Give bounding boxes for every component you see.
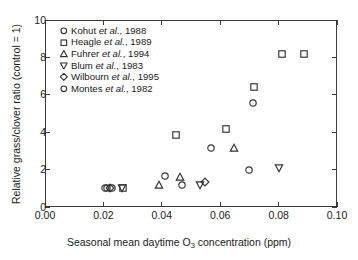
x-tick (220, 20, 221, 25)
circle-icon (57, 85, 71, 93)
x-tick-label: 0.08 (268, 210, 288, 221)
legend-label: Montes et al., 1982 (71, 84, 153, 94)
ozone-subscript: 3 (191, 241, 195, 250)
triangle-up-icon (57, 50, 71, 58)
legend-label: Heagle et al., 1989 (71, 37, 152, 47)
y-tick (332, 132, 337, 133)
x-tick-label: 0.00 (35, 210, 55, 221)
legend-item: Montes et al., 1982 (57, 83, 207, 95)
chart-legend: Kohut et al., 1988Heagle et al., 1989Fuh… (57, 25, 207, 95)
legend-item: Heagle et al., 1989 (57, 37, 207, 49)
legend-item: Blum et al., 1983 (57, 60, 207, 72)
x-tick (161, 202, 162, 207)
legend-label: Blum et al., 1983 (71, 61, 143, 71)
diamond-icon (57, 73, 71, 81)
x-tick-label: 0.10 (327, 210, 347, 221)
chart-figure: 0246810 0.000.020.040.060.080.10 Kohut e… (0, 0, 358, 260)
square-icon (57, 39, 71, 47)
y-tick-label: 6 (40, 89, 46, 100)
x-tick-label: 0.02 (93, 210, 113, 221)
x-tick (220, 202, 221, 207)
x-tick (278, 20, 279, 25)
x-axis-label: Seasonal mean daytime O3 concentration (… (0, 236, 358, 250)
legend-item: Kohut et al., 1988 (57, 25, 207, 37)
x-tick-label: 0.04 (152, 210, 172, 221)
y-tick-label: 2 (40, 164, 46, 175)
y-tick-label: 10 (34, 15, 46, 26)
x-tick (337, 20, 338, 25)
y-tick (332, 94, 337, 95)
legend-label: Wilbourn et al., 1995 (71, 72, 159, 82)
y-tick-label: 4 (40, 127, 46, 138)
y-tick (332, 169, 337, 170)
y-tick-label: 8 (40, 52, 46, 63)
triangle-down-icon (57, 62, 71, 70)
x-tick (103, 202, 104, 207)
x-tick (337, 202, 338, 207)
legend-label: Fuhrer et al., 1994 (71, 49, 149, 59)
legend-item: Wilbourn et al., 1995 (57, 71, 207, 83)
x-tick-label: 0.06 (210, 210, 230, 221)
legend-label: Kohut et al., 1988 (71, 26, 146, 36)
circle-icon (57, 27, 71, 35)
legend-item: Fuhrer et al., 1994 (57, 48, 207, 60)
y-tick (332, 57, 337, 58)
y-axis-label: Relative grass/clover ratio (control = 1… (10, 14, 22, 214)
x-tick (278, 202, 279, 207)
